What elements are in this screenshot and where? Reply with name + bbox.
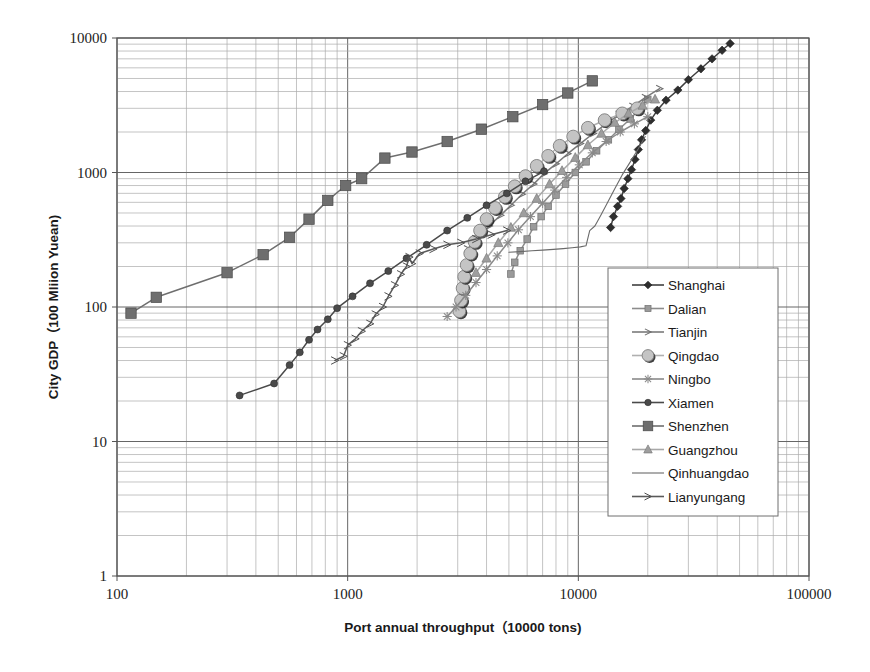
x-axis-tick-labels: 100100010000100000 (106, 576, 832, 602)
x-axis-title: Port annual throughput（10000 tons) (344, 620, 581, 635)
y-tick-1: 1 (100, 568, 108, 584)
x-tick-10000: 10000 (560, 586, 598, 602)
legend-label: Lianyungang (668, 490, 745, 505)
y-tick-100: 100 (85, 299, 108, 315)
y-tick-1000: 1000 (77, 165, 107, 181)
legend-label: Dalian (668, 302, 706, 317)
x-tick-100000: 100000 (787, 586, 832, 602)
y-tick-10000: 10000 (70, 30, 108, 46)
x-tick-1000: 1000 (333, 586, 363, 602)
legend-label: Ningbo (668, 372, 711, 387)
y-axis-title: City GDP（100 Mliion Yuean) (46, 215, 61, 400)
series-lianyungang (331, 227, 511, 365)
legend-label: Shanghai (668, 278, 725, 293)
legend-label: Tianjin (668, 325, 707, 340)
legend-label: Qinhuangdao (668, 466, 749, 481)
series-dalian (508, 96, 651, 277)
chart-legend: ShanghaiDalianTianjinQingdaoNingboXiamen… (608, 268, 778, 516)
legend-label: Guangzhou (668, 443, 738, 458)
legend-label: Shenzhen (668, 419, 729, 434)
scatter-line-chart: 100100010000100000 110100100010000 Shang… (0, 0, 870, 672)
x-tick-100: 100 (106, 586, 129, 602)
chart-container: 100100010000100000 110100100010000 Shang… (0, 0, 870, 672)
y-tick-10: 10 (92, 434, 107, 450)
legend-label: Xiamen (668, 396, 714, 411)
legend-label: Qingdao (668, 349, 719, 364)
y-axis-tick-labels: 110100100010000 (70, 30, 118, 584)
series-shenzhen (126, 76, 598, 319)
